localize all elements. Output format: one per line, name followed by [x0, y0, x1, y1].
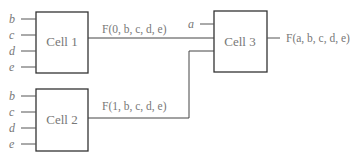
- cell-2-input-d: d: [9, 121, 16, 135]
- cell-2-input-e: e: [9, 137, 15, 151]
- cell-2-output-label: F(1, b, c, d, e): [102, 100, 167, 113]
- cell-1-output-label: F(0, b, c, d, e): [102, 23, 167, 36]
- cell-3: Cell 3 a F(a, b, c, d, e): [188, 11, 350, 72]
- cell-2-input-c: c: [9, 105, 15, 119]
- cell-3-output-label: F(a, b, c, d, e): [286, 32, 350, 45]
- cell-1-input-e: e: [9, 60, 15, 74]
- cell-2-input-b: b: [9, 89, 15, 103]
- cell-1-label: Cell 1: [46, 34, 77, 49]
- cell-2-label: Cell 2: [46, 112, 77, 127]
- cell-1-input-b: b: [9, 12, 15, 26]
- cell-3-label: Cell 3: [224, 34, 255, 49]
- cell-1: Cell 1 b c d e: [9, 12, 88, 74]
- cell-2: Cell 2 b c d e: [9, 89, 88, 151]
- cell-1-input-d: d: [9, 44, 16, 58]
- cell-diagram: Cell 1 b c d e Cell 2 b c d e Cell 3 a: [0, 0, 359, 161]
- cell-3-input-a: a: [188, 17, 194, 31]
- cell-1-input-c: c: [9, 28, 15, 42]
